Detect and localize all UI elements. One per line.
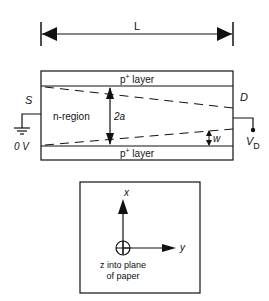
drain-node-icon	[251, 128, 255, 132]
drain-voltage-label: VD	[246, 135, 260, 151]
ground-voltage-label: 0 V	[14, 141, 30, 152]
source-terminal: S 0 V	[14, 94, 41, 152]
axes-inset: x y z into plane of paper	[80, 182, 200, 293]
channel-width-label: 2a	[113, 111, 126, 122]
z-caption-line1: z into plane	[100, 260, 146, 270]
length-dimension: L	[41, 20, 233, 46]
x-axis-arrow-icon	[118, 199, 128, 214]
depletion-width-arrow: w	[206, 130, 221, 146]
source-label: S	[25, 94, 33, 106]
lower-depletion-boundary	[45, 129, 233, 145]
drain-label: D	[240, 91, 248, 103]
ground-icon	[14, 128, 30, 134]
depletion-width-label: w	[213, 133, 221, 144]
y-axis-arrow-icon	[162, 244, 176, 252]
z-caption-line2: of paper	[106, 271, 139, 281]
length-label: L	[134, 20, 140, 32]
n-region-label: n-region	[53, 111, 90, 122]
bottom-p-layer-label: p+ layer	[120, 147, 155, 159]
drain-terminal: D VD	[233, 91, 260, 151]
z-into-page-icon	[116, 241, 130, 255]
y-axis-label: y	[179, 242, 186, 253]
top-p-layer-label: p+ layer	[120, 73, 155, 85]
upper-depletion-boundary	[45, 87, 233, 108]
x-axis-label: x	[123, 187, 130, 198]
jfet-diagram: L p+ layer p+ layer n-region 2a w S 0 V	[0, 0, 269, 301]
